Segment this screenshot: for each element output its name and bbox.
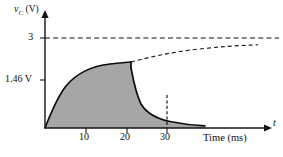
capacitor-voltage-figure: vC (V) 3 1.46 V 10 20 30 Time (ms) t	[0, 0, 283, 157]
y-axis-title: vC (V)	[14, 4, 39, 17]
x-tick-label-30: 30	[160, 132, 170, 142]
y-axis-arrowhead	[41, 10, 48, 18]
x-axis-variable-symbol: t	[273, 118, 276, 128]
x-axis-arrowhead	[264, 124, 272, 131]
y-axis-unit: (V)	[23, 4, 39, 14]
shaded-area-under-curve	[45, 62, 205, 128]
y-tick-label-1p46: 1.46 V	[5, 74, 32, 84]
x-tick-label-20: 20	[120, 132, 130, 142]
y-tick-label-3: 3	[28, 32, 33, 43]
x-axis-title: Time (ms)	[203, 133, 247, 144]
x-tick-label-10: 10	[79, 132, 89, 142]
charging-continuation-dashed-curve	[131, 45, 258, 62]
